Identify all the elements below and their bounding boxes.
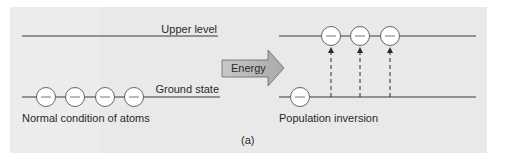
energy-label: Energy xyxy=(231,63,266,74)
atom-icon xyxy=(37,88,56,107)
atom-icon xyxy=(322,27,341,46)
atom-icon xyxy=(96,88,115,107)
panel-label: (a) xyxy=(241,135,254,146)
energy-level-diagram xyxy=(0,0,509,165)
atom-icon xyxy=(125,88,144,107)
right-ground-atoms xyxy=(291,88,310,107)
atom-icon xyxy=(66,88,85,107)
normal-condition-caption: Normal condition of atoms xyxy=(22,113,150,124)
atom-icon xyxy=(351,27,370,46)
population-inversion-caption: Population inversion xyxy=(279,113,378,124)
right-upper-atoms xyxy=(322,27,400,46)
atom-icon xyxy=(291,88,310,107)
upper-level-label: Upper level xyxy=(161,24,217,35)
ground-state-label: Ground state xyxy=(155,84,219,95)
atom-icon xyxy=(381,27,400,46)
excitation-arrows xyxy=(331,50,390,97)
